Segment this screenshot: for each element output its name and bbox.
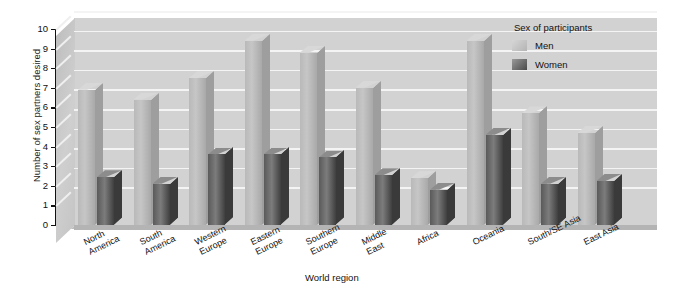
legend-label-men: Men: [535, 40, 553, 51]
bar-men: [522, 113, 539, 225]
bar-men: [467, 41, 484, 225]
bar-men: [578, 133, 595, 225]
legend-swatch-men: [512, 40, 527, 51]
bar-front: [189, 78, 206, 225]
bar-women: [375, 175, 392, 225]
bar-women: [97, 177, 114, 225]
bar-front: [134, 100, 151, 225]
bar-side-face: [614, 174, 622, 225]
bar-men: [189, 78, 206, 225]
bar-side-face: [114, 170, 122, 225]
y-tick-label: 3: [26, 160, 48, 171]
y-tick-label: 0: [26, 219, 48, 230]
bar-front: [578, 133, 595, 225]
y-tick-label: 9: [26, 43, 48, 54]
grid-line: [74, 11, 657, 13]
bar-women: [430, 190, 447, 225]
bar-men: [245, 41, 262, 225]
chart-figure: Number of sex partners desired 012345678…: [0, 0, 675, 293]
bar-front: [356, 88, 373, 225]
bar-men: [411, 178, 428, 225]
legend: Sex of participants Men Women: [512, 22, 657, 78]
bar-women: [541, 184, 558, 225]
x-tick-label: MiddleEast: [360, 226, 393, 256]
y-tick-label: 10: [26, 23, 48, 34]
bar-men: [78, 90, 95, 225]
legend-item-men: Men: [512, 40, 657, 51]
bar-side-face: [336, 150, 344, 225]
bar-front: [375, 175, 392, 225]
legend-swatch-women: [512, 59, 527, 70]
bar-front: [467, 41, 484, 225]
y-tick-label: 5: [26, 121, 48, 132]
bar-front: [97, 177, 114, 225]
bar-front: [486, 135, 503, 225]
bar-front: [319, 157, 336, 225]
y-tick-label: 6: [26, 101, 48, 112]
bar-front: [597, 181, 614, 225]
y-tick-label: 8: [26, 62, 48, 73]
bar-women: [486, 135, 503, 225]
bar-front: [245, 41, 262, 225]
bar-men: [300, 53, 317, 225]
bar-women: [208, 154, 225, 225]
bar-front: [300, 53, 317, 225]
bar-side-face: [503, 128, 511, 225]
bar-side-face: [225, 147, 233, 225]
legend-title: Sex of participants: [512, 22, 657, 33]
bar-front: [522, 113, 539, 225]
y-tick-label: 4: [26, 141, 48, 152]
bar-front: [78, 90, 95, 225]
x-tick-label: Africa: [415, 228, 440, 248]
y-tick-label: 2: [26, 180, 48, 191]
bar-front: [411, 178, 428, 225]
bar-men: [356, 88, 373, 225]
bar-women: [597, 181, 614, 225]
chart-side-wall: [56, 18, 75, 243]
y-tick-label: 7: [26, 82, 48, 93]
bar-front: [430, 190, 447, 225]
bar-front: [541, 184, 558, 225]
bar-women: [264, 154, 281, 225]
bar-women: [319, 157, 336, 225]
bar-front: [153, 184, 170, 225]
bar-men: [134, 100, 151, 225]
x-axis-title: World region: [305, 272, 359, 283]
bar-side-face: [392, 168, 400, 225]
bar-side-face: [281, 147, 289, 225]
legend-item-women: Women: [512, 59, 657, 70]
y-tick-label: 1: [26, 199, 48, 210]
bar-side-face: [170, 177, 178, 225]
bar-women: [153, 184, 170, 225]
legend-label-women: Women: [535, 59, 568, 70]
bar-front: [264, 154, 281, 225]
bar-front: [208, 154, 225, 225]
